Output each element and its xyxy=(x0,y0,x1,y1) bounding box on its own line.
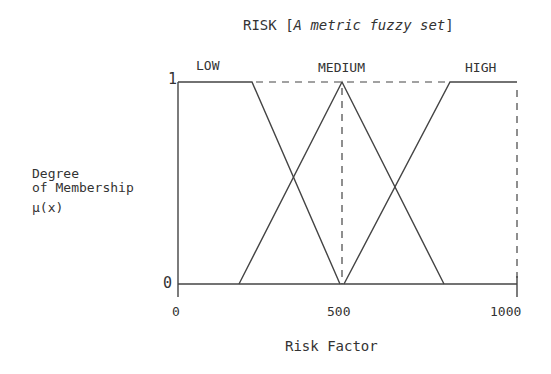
label-high: HIGH xyxy=(465,60,496,75)
y-tick-0: 0 xyxy=(163,274,172,292)
y-axis-label-mu: μ(x) xyxy=(32,200,63,215)
y-tick-1: 1 xyxy=(168,70,177,88)
y-axis-label-line1: Degree xyxy=(32,166,79,181)
x-tick-1000: 1000 xyxy=(490,304,521,319)
x-axis-label: Risk Factor xyxy=(285,338,378,354)
series-low xyxy=(178,82,340,284)
x-tick-0: 0 xyxy=(172,304,180,319)
y-axis-label-line2: of Membership xyxy=(32,180,134,195)
series-high xyxy=(344,82,517,284)
label-low: LOW xyxy=(196,58,219,73)
x-tick-500: 500 xyxy=(327,304,350,319)
label-medium: MEDIUM xyxy=(318,60,365,75)
